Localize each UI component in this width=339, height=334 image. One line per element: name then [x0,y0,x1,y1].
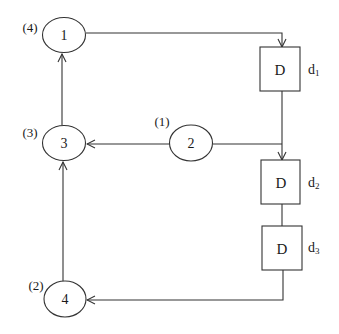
delay-d1-label: D [275,62,286,78]
node-4-order-label: (2) [28,278,43,293]
edge-d3-to-4 [87,270,283,300]
edge-1-to-d1 [86,33,282,47]
node-3[interactable]: 3 [43,126,86,161]
delay-d3-label: D [277,241,288,257]
node-3-order-label: (3) [22,125,37,140]
delay-d1-name: d1 [308,62,320,78]
node-2[interactable]: 2 [170,125,213,161]
node-1-label: 1 [61,28,68,43]
delay-d3-name: d3 [308,240,320,256]
delay-d2[interactable]: D [261,160,300,204]
node-2-order-label: (1) [154,114,169,129]
node-3-label: 3 [61,136,68,151]
delay-d2-label: D [276,175,287,191]
node-4-label: 4 [62,292,69,307]
node-2-label: 2 [188,136,195,151]
node-1[interactable]: 1 [43,18,86,53]
dataflow-graph: 1 (4) 3 (3) 2 (1) 4 (2) D d1 D [0,0,339,334]
delay-d1[interactable]: D [260,47,300,91]
node-1-order-label: (4) [22,20,37,35]
node-4[interactable]: 4 [44,281,86,317]
diagram-canvas: 1 (4) 3 (3) 2 (1) 4 (2) D d1 D [0,0,339,334]
delay-d3[interactable]: D [262,226,302,270]
delay-d2-name: d2 [308,175,320,191]
